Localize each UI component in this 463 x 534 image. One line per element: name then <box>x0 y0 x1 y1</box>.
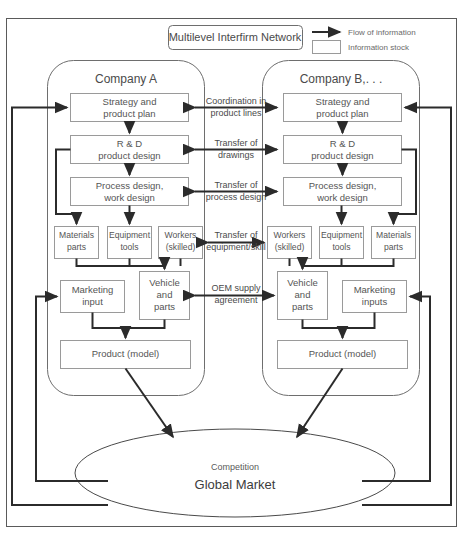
link-drawings-line2: drawings <box>218 150 255 160</box>
link-drawings: Transfer of drawings <box>195 138 277 160</box>
box-process-b-line2: work design <box>316 192 368 203</box>
title-box: Multilevel Interfirm Network <box>169 26 303 50</box>
box-marketing-a[interactable]: Marketing input <box>61 281 125 313</box>
diagram-canvas: Multilevel Interfirm Network Flow of inf… <box>0 0 463 534</box>
link-coordination-line1: Coordination in <box>206 96 267 106</box>
legend-label-flow: Flow of information <box>348 28 416 37</box>
box-marketing-b-line2: inputs <box>362 296 388 307</box>
box-equipment-b[interactable]: Equipment tools <box>320 227 364 259</box>
box-workers-a[interactable]: Workers (skilled) <box>159 227 203 259</box>
box-materials-a[interactable]: Materials parts <box>55 227 99 259</box>
legend-item-stock: Information stock <box>313 41 410 54</box>
link-oem-line1: OEM supply <box>211 283 261 293</box>
box-equipment-b-line1: Equipment <box>321 230 363 240</box>
box-process-a[interactable]: Process design, work design <box>71 178 189 206</box>
company-a-name: Company A <box>95 72 157 86</box>
box-vehicle-a-line2: and <box>157 289 173 300</box>
legend: Flow of information Information stock <box>312 28 416 54</box>
box-rnd-b-line1: R & D <box>330 138 355 149</box>
box-rnd-b[interactable]: R & D product design <box>284 136 402 164</box>
company-b-name: Company B,. . . <box>300 72 383 86</box>
box-marketing-b-line1: Marketing <box>354 284 396 295</box>
box-workers-b-line2: (skilled) <box>275 242 305 252</box>
box-vehicle-a-line1: Vehicle <box>149 277 180 288</box>
box-vehicle-a-line3: parts <box>154 301 175 312</box>
box-strategy-a-line1: Strategy and <box>103 96 157 107</box>
link-process-line2: process design <box>206 192 267 202</box>
interfirm-network-diagram: Multilevel Interfirm Network Flow of inf… <box>0 0 463 534</box>
link-equipment-line2: equipment/skill <box>206 242 266 252</box>
box-process-b[interactable]: Process design, work design <box>284 178 402 206</box>
box-rnd-a[interactable]: R & D product design <box>71 136 189 164</box>
box-equipment-a-line1: Equipment <box>109 230 151 240</box>
box-strategy-a-line2: product plan <box>103 108 155 119</box>
box-strategy-a[interactable]: Strategy and product plan <box>71 94 189 122</box>
box-strategy-b-line2: product plan <box>316 108 368 119</box>
box-marketing-a-line1: Marketing <box>72 284 114 295</box>
link-process: Transfer of process design <box>195 180 277 202</box>
rectangle-icon <box>313 41 341 54</box>
box-workers-a-line1: Workers <box>165 230 197 240</box>
box-process-a-line1: Process design, <box>96 180 164 191</box>
box-strategy-b[interactable]: Strategy and product plan <box>284 94 402 122</box>
product-to-market-flows <box>126 369 343 438</box>
box-rnd-a-line1: R & D <box>117 138 142 149</box>
box-rnd-b-line2: product design <box>311 150 373 161</box>
link-coordination-line2: product lines <box>210 108 262 118</box>
box-marketing-b[interactable]: Marketing inputs <box>343 281 407 313</box>
box-workers-b-line1: Workers <box>274 230 306 240</box>
box-process-a-line2: work design <box>103 192 155 203</box>
link-process-line1: Transfer of <box>214 180 258 190</box>
box-strategy-b-line1: Strategy and <box>316 96 370 107</box>
link-equipment-line1: Transfer of <box>214 230 258 240</box>
link-oem-line2: agreement <box>214 295 258 305</box>
box-equipment-a[interactable]: Equipment tools <box>108 227 152 259</box>
global-market-node[interactable]: Competition Global Market <box>75 429 395 517</box>
box-product-a-label: Product (model) <box>92 348 160 359</box>
box-vehicle-b-line3: parts <box>292 301 313 312</box>
box-vehicle-b[interactable]: Vehicle and parts <box>278 272 328 320</box>
box-materials-b-line2: parts <box>384 242 403 252</box>
box-equipment-a-line2: tools <box>120 242 138 252</box>
box-vehicle-b-line2: and <box>295 289 311 300</box>
box-workers-b[interactable]: Workers (skilled) <box>268 227 312 259</box>
box-rnd-a-line2: product design <box>98 150 160 161</box>
legend-item-flow: Flow of information <box>312 28 416 37</box>
market-global-label: Global Market <box>195 477 276 492</box>
box-marketing-a-line2: input <box>82 296 103 307</box>
box-product-b[interactable]: Product (model) <box>278 341 408 369</box>
market-competition-label: Competition <box>211 462 259 472</box>
box-process-b-line1: Process design, <box>309 180 377 191</box>
title-label: Multilevel Interfirm Network <box>169 31 302 43</box>
box-product-b-label: Product (model) <box>309 348 377 359</box>
box-vehicle-b-line1: Vehicle <box>287 277 318 288</box>
legend-label-stock: Information stock <box>348 43 410 52</box>
box-materials-b[interactable]: Materials parts <box>372 227 416 259</box>
link-drawings-line1: Transfer of <box>214 138 258 148</box>
box-workers-a-line2: (skilled) <box>166 242 196 252</box>
box-product-a[interactable]: Product (model) <box>61 341 191 369</box>
interfirm-links: Coordination in product lines Transfer o… <box>195 96 277 305</box>
box-materials-a-line2: parts <box>67 242 86 252</box>
box-vehicle-a[interactable]: Vehicle and parts <box>140 272 190 320</box>
link-equipment: Transfer of equipment/skill <box>206 230 266 252</box>
box-materials-b-line1: Materials <box>376 230 411 240</box>
box-materials-a-line1: Materials <box>59 230 94 240</box>
link-coordination: Coordination in product lines <box>195 96 277 118</box>
box-equipment-b-line2: tools <box>332 242 350 252</box>
